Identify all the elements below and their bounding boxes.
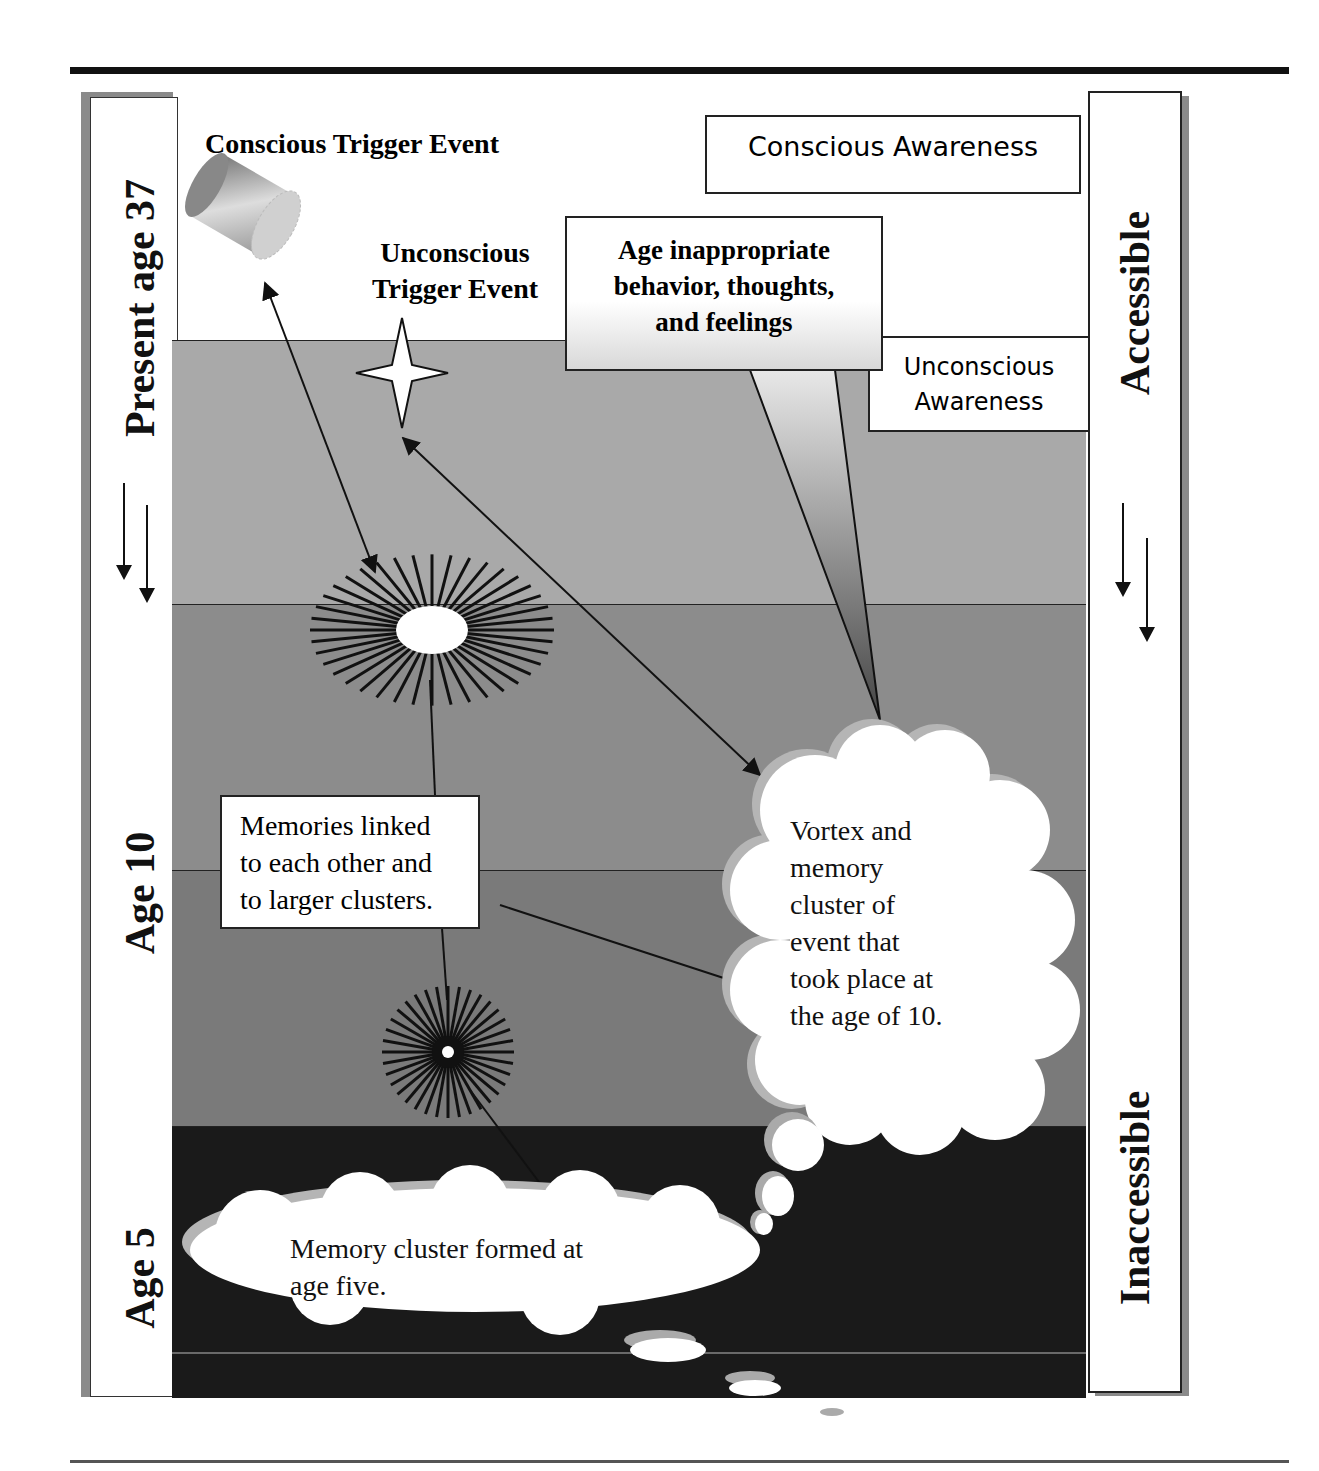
unconscious-trigger-line1: Unconscious: [350, 235, 560, 271]
conscious-trigger-cylinder-icon: [176, 145, 311, 267]
starburst-small-icon: [382, 986, 514, 1118]
unconscious-awareness-line1: Unconscious: [870, 350, 1088, 385]
conscious-trigger-label: Conscious Trigger Event: [205, 128, 499, 160]
link-memories-to-small-burst: [442, 928, 447, 1000]
link-memories-to-vortex: [500, 905, 745, 985]
double-down-arrow-icon-right: [1115, 503, 1155, 642]
conscious-awareness-box: Conscious Awareness: [705, 115, 1081, 194]
callout-line2: behavior, thoughts,: [567, 268, 881, 304]
arrow-star-to-vortex: [403, 438, 760, 775]
unconscious-awareness-box: Unconscious Awareness: [868, 336, 1090, 432]
vortex-line: Vortex and: [790, 812, 942, 849]
arrow-conscious-to-burst: [265, 283, 375, 572]
double-down-arrow-icon-left: [116, 483, 155, 603]
age5-line1: Memory cluster formed at: [290, 1230, 583, 1267]
unconscious-trigger-line2: Trigger Event: [350, 271, 560, 307]
age-inappropriate-callout: Age inappropriate behavior, thoughts, an…: [565, 216, 883, 371]
starburst-large-icon: [310, 554, 554, 705]
memories-line2: to each other and: [240, 844, 478, 881]
vortex-cloud-text: Vortex and memory cluster of event that …: [790, 812, 942, 1034]
age5-cloud-text: Memory cluster formed at age five.: [290, 1230, 583, 1304]
vortex-line: took place at: [790, 960, 942, 997]
memories-line1: Memories linked: [240, 807, 478, 844]
vortex-line: cluster of: [790, 886, 942, 923]
memories-linked-box: Memories linked to each other and to lar…: [220, 795, 480, 929]
vortex-line: event that: [790, 923, 942, 960]
callout-line3: and feelings: [567, 304, 881, 340]
unconscious-trigger-star-icon: [356, 318, 448, 428]
memories-line3: to larger clusters.: [240, 881, 478, 918]
age5-line2: age five.: [290, 1267, 583, 1304]
vortex-line: the age of 10.: [790, 997, 942, 1034]
callout-tail: [750, 370, 880, 720]
vortex-line: memory: [790, 849, 942, 886]
callout-line1: Age inappropriate: [567, 232, 881, 268]
unconscious-awareness-line2: Awareness: [870, 385, 1088, 420]
unconscious-trigger-label: Unconscious Trigger Event: [350, 235, 560, 307]
